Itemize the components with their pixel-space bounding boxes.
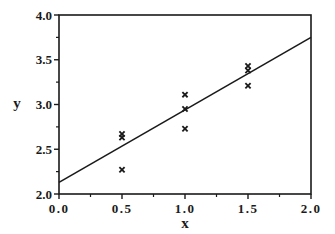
- x-tick-label: 0.5: [112, 201, 133, 216]
- data-point-marker: [182, 126, 187, 131]
- x-tick-label: 1.0: [175, 201, 196, 216]
- x-axis-label: x: [181, 215, 189, 231]
- y-tick-label: 2.5: [36, 142, 53, 157]
- data-point-marker: [245, 68, 250, 73]
- y-axis: 2.02.53.03.54.0: [36, 8, 59, 202]
- x-tick-label: 0.0: [49, 201, 70, 216]
- data-point-marker: [119, 135, 124, 140]
- x-axis: 0.00.51.01.52.0: [49, 194, 322, 216]
- scatter-chart: 2.02.53.03.54.0 0.00.51.01.52.0 y x: [0, 0, 335, 234]
- y-tick-label: 3.0: [36, 97, 52, 112]
- y-tick-label: 3.5: [36, 52, 53, 67]
- x-tick-label: 2.0: [301, 201, 322, 216]
- data-point-marker: [119, 167, 124, 172]
- data-points: [119, 63, 250, 172]
- data-point-marker: [182, 92, 187, 97]
- y-tick-label: 2.0: [36, 187, 52, 202]
- data-point-marker: [245, 83, 250, 88]
- y-axis-label: y: [13, 95, 21, 111]
- plot-frame: [59, 15, 311, 194]
- y-tick-label: 4.0: [36, 8, 52, 23]
- x-tick-label: 1.5: [238, 201, 259, 216]
